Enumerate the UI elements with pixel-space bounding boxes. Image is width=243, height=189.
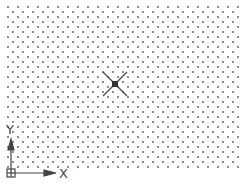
ucs-icon [7, 139, 56, 177]
crosshair-cursor [103, 72, 127, 96]
overlay [0, 0, 243, 189]
y-axis-label: Y [6, 123, 14, 136]
x-axis-label: X [59, 167, 68, 180]
drawing-canvas[interactable]: Y X [0, 0, 243, 189]
